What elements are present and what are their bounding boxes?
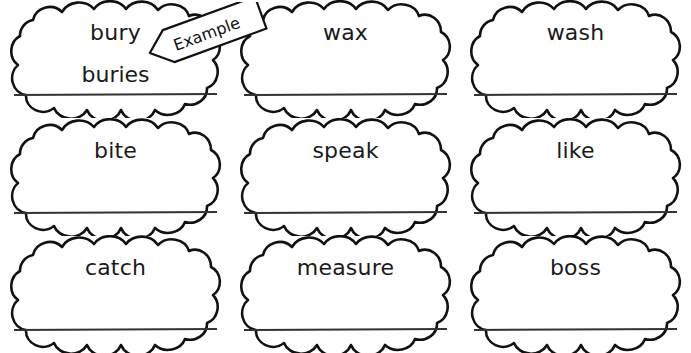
cloud-word: like xyxy=(460,138,691,164)
cloud-cell-boss[interactable]: boss xyxy=(460,235,691,353)
cloud-word: catch xyxy=(0,255,231,281)
cloud-word: measure xyxy=(230,255,461,281)
cloud-shape-icon xyxy=(460,0,691,118)
cloud-word: speak xyxy=(230,138,461,164)
cloud-grid: bury buries wax wash bite xyxy=(0,0,691,353)
cloud-cell-catch[interactable]: catch xyxy=(0,235,231,353)
cloud-cell-wash[interactable]: wash xyxy=(460,0,691,118)
cloud-shape-icon xyxy=(0,235,231,353)
cloud-cell-bite[interactable]: bite xyxy=(0,118,231,236)
cloud-shape-icon xyxy=(460,235,691,353)
cloud-cell-speak[interactable]: speak xyxy=(230,118,461,236)
cloud-shape-icon xyxy=(0,118,231,236)
cloud-cell-like[interactable]: like xyxy=(460,118,691,236)
cloud-cell-measure[interactable]: measure xyxy=(230,235,461,353)
cloud-word: boss xyxy=(460,255,691,281)
cloud-word: bite xyxy=(0,138,231,164)
example-callout: Example xyxy=(137,2,273,68)
cloud-shape-icon xyxy=(460,118,691,236)
cloud-shape-icon xyxy=(230,235,461,353)
cloud-word: wash xyxy=(460,20,691,46)
cloud-shape-icon xyxy=(230,118,461,236)
worksheet-page: bury buries wax wash bite xyxy=(0,0,691,353)
example-arrow-icon: Example xyxy=(137,2,273,68)
